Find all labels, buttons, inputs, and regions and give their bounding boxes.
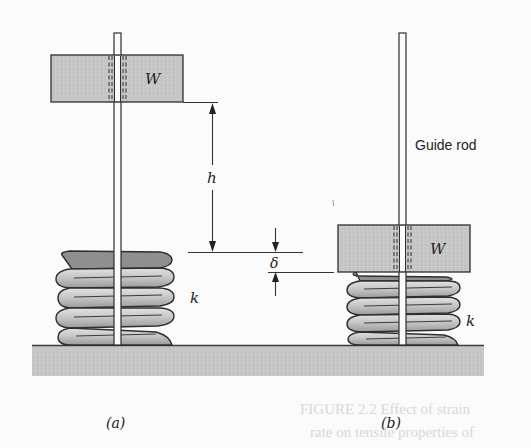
height-label: h bbox=[207, 169, 217, 187]
guide-rod-label: Guide rod bbox=[415, 137, 476, 153]
ground bbox=[32, 345, 484, 376]
height-dimension: h bbox=[207, 103, 217, 252]
deflection-dimension: δ bbox=[268, 228, 334, 296]
weight-label-a: W bbox=[145, 70, 162, 88]
weight-block-b: W bbox=[338, 225, 470, 272]
spring-label-b: k bbox=[466, 312, 475, 330]
deflection-label: δ bbox=[270, 255, 278, 271]
weight-block-a: W bbox=[51, 55, 183, 102]
weight-label-b: W bbox=[430, 240, 447, 258]
panel-caption-a: (a) bbox=[106, 415, 125, 431]
impact-spring-diagram: FIGURE 2.2 Effect of strain rate on tens… bbox=[0, 0, 531, 448]
guide-rod-b bbox=[399, 33, 406, 345]
panel-caption-b: (b) bbox=[381, 415, 401, 431]
spring-label-a: k bbox=[190, 289, 199, 307]
scan-speck bbox=[333, 200, 334, 206]
